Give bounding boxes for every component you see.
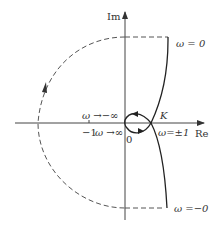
nyquist-diagram: Im Re ω = 0 ω =−0 ω →−∞ −1 ω →∞ 0 K ω=±1 (0, 0, 221, 228)
real-axis-label: Re (195, 128, 209, 139)
arc-direction-arrow-icon (42, 82, 47, 93)
loop-arrow-bottom-icon (138, 128, 144, 134)
point-k-label: K (159, 110, 168, 121)
omega-zero-top-label: ω = 0 (176, 38, 206, 49)
origin-label: 0 (126, 134, 132, 145)
imag-axis-label: Im (107, 11, 121, 22)
omega-zero-bottom-label: ω =−0 (174, 203, 209, 214)
omega-pos-inf-label: ω →∞ (95, 127, 123, 138)
loop-arrow-top-icon (132, 111, 138, 117)
omega-pm1-label: ω=±1 (158, 127, 189, 138)
omega-neg-inf-label: ω →−∞ (82, 110, 118, 121)
